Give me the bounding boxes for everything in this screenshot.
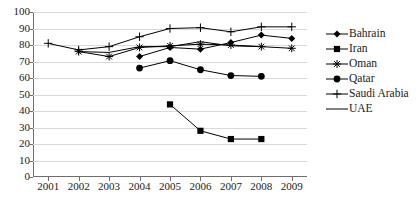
data-point-circle: [334, 75, 341, 82]
legend-item-saudi-arabia[interactable]: Saudi Arabia: [325, 86, 416, 101]
data-point-plus: [135, 33, 143, 41]
series-qatar: [136, 57, 265, 79]
legend-marker-none-icon: [325, 102, 349, 116]
data-point-plus: [105, 42, 113, 50]
data-point-plus: [166, 24, 174, 32]
legend-marker-diamond-icon: [325, 27, 349, 41]
y-axis-label: 30: [0, 122, 30, 133]
y-axis-label: 20: [0, 138, 30, 149]
y-axis-label: 100: [0, 6, 30, 17]
data-point-plus: [74, 46, 82, 54]
data-series-layer: [33, 12, 307, 177]
data-point-plus: [227, 28, 235, 36]
data-point-plus: [196, 23, 204, 31]
y-axis-label: 60: [0, 72, 30, 83]
y-axis-label: 40: [0, 105, 30, 116]
legend-label: Saudi Arabia: [349, 87, 409, 100]
legend-item-bahrain[interactable]: Bahrain: [325, 26, 416, 41]
data-point-diamond: [288, 35, 295, 42]
data-point-square: [228, 136, 234, 142]
data-point-diamond: [258, 32, 265, 39]
chart-legend: BahrainIranOmanQatarSaudi ArabiaUAE: [325, 26, 416, 116]
y-axis-label: 10: [0, 155, 30, 166]
y-axis-label: 90: [0, 23, 30, 34]
data-point-circle: [197, 66, 204, 73]
series-iran: [167, 101, 265, 142]
data-point-diamond: [334, 30, 341, 37]
y-axis-label: 0: [0, 171, 30, 182]
legend-marker-plus-icon: [325, 87, 349, 101]
data-point-square: [258, 136, 264, 142]
data-point-circle: [167, 57, 174, 64]
x-axis-label: 2009: [272, 180, 312, 192]
data-point-plus: [257, 23, 265, 31]
data-point-circle: [136, 65, 143, 72]
legend-label: UAE: [349, 102, 373, 115]
legend-item-qatar[interactable]: Qatar: [325, 71, 416, 86]
y-axis-label: 80: [0, 39, 30, 50]
data-point-plus: [44, 39, 52, 47]
data-point-plus: [333, 89, 341, 97]
legend-item-iran[interactable]: Iran: [325, 41, 416, 56]
data-point-square: [197, 128, 203, 134]
series-bahrain: [136, 32, 295, 60]
series-oman: [75, 40, 296, 60]
legend-marker-circle-icon: [325, 72, 349, 86]
y-axis-label: 50: [0, 89, 30, 100]
y-axis-label: 70: [0, 56, 30, 67]
y-axis-tick: [29, 177, 33, 178]
legend-label: Qatar: [349, 72, 375, 85]
legend-marker-asterisk-icon: [325, 57, 349, 71]
legend-label: Iran: [349, 42, 368, 55]
data-point-square: [167, 101, 173, 107]
data-point-circle: [227, 72, 234, 79]
data-point-plus: [288, 23, 296, 31]
line-chart: 1009080706050403020100 20012002200320042…: [0, 0, 416, 208]
data-point-asterisk: [288, 44, 296, 52]
legend-label: Oman: [349, 57, 377, 70]
legend-label: Bahrain: [349, 27, 385, 40]
data-point-diamond: [136, 53, 143, 60]
legend-item-uae[interactable]: UAE: [325, 101, 416, 116]
data-point-asterisk: [333, 60, 341, 68]
y-axis-labels: 1009080706050403020100: [0, 12, 30, 177]
data-point-asterisk: [105, 53, 113, 61]
x-axis-labels: 200120022003200420052006200720082009: [33, 180, 307, 196]
data-point-square: [334, 45, 340, 51]
data-point-circle: [258, 73, 265, 80]
legend-item-oman[interactable]: Oman: [325, 56, 416, 71]
legend-marker-square-icon: [325, 42, 349, 56]
